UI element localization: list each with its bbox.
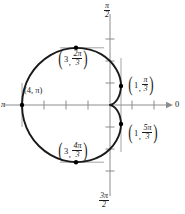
paren-open-icon: (	[128, 76, 132, 93]
point-label-angle-numerator: 5π	[142, 124, 152, 132]
point-label-angle-denominator: 3	[142, 84, 148, 93]
polar-plot-canvas	[0, 0, 185, 214]
paren-open-icon: (	[58, 50, 62, 67]
paren-close-icon: )	[154, 124, 158, 141]
paren-close-icon: )	[150, 76, 154, 93]
point-label-angle-denominator: 3	[72, 58, 82, 67]
paren-close-icon: )	[84, 50, 88, 67]
paren-open-icon: (	[58, 142, 62, 159]
axis-label-left: π	[1, 100, 5, 109]
point-label-1-pi-3: ( 1 , π 3 )	[127, 76, 155, 93]
point-label-angle-numerator: 4π	[72, 142, 82, 150]
point-label-angle-numerator: π	[142, 76, 148, 84]
point-label-angle-numerator: 2π	[72, 50, 82, 58]
horizontal-axis-arrow	[166, 102, 173, 108]
paren-open-icon: (	[128, 124, 132, 141]
axis-label-bottom-denominator: 2	[99, 200, 109, 209]
paren-close-icon: )	[84, 142, 88, 159]
point-1-pi-3	[119, 84, 123, 88]
axes-group	[4, 14, 173, 196]
point-label-angle-denominator: 3	[72, 150, 82, 159]
point-3-4pi-3	[74, 160, 78, 164]
axis-label-top-denominator: 2	[104, 10, 110, 19]
axis-label-right: 0	[175, 100, 179, 109]
point-label-3-4pi-3: ( 3 , 4π 3 )	[57, 142, 89, 159]
axis-label-bottom-numerator: 3π	[99, 192, 109, 200]
point-label-angle-denominator: 3	[142, 132, 152, 141]
point-4-pi	[20, 103, 24, 107]
point-label-3-2pi-3: ( 3 , 2π 3 )	[57, 50, 89, 67]
axis-label-bottom: 3π 2	[99, 192, 109, 209]
point-label-1-5pi-3: ( 1 , 5π 3 )	[127, 124, 159, 141]
axis-label-top-numerator: π	[104, 2, 110, 10]
axis-label-top: π 2	[104, 2, 110, 19]
point-label-4-pi: (4, π)	[24, 86, 42, 95]
point-1-5pi-3	[119, 122, 123, 126]
polar-graph-figure: π 2 3π 2 π 0 ( 3 , 2π 3 ) (4, π) ( 1 ,	[0, 0, 185, 214]
